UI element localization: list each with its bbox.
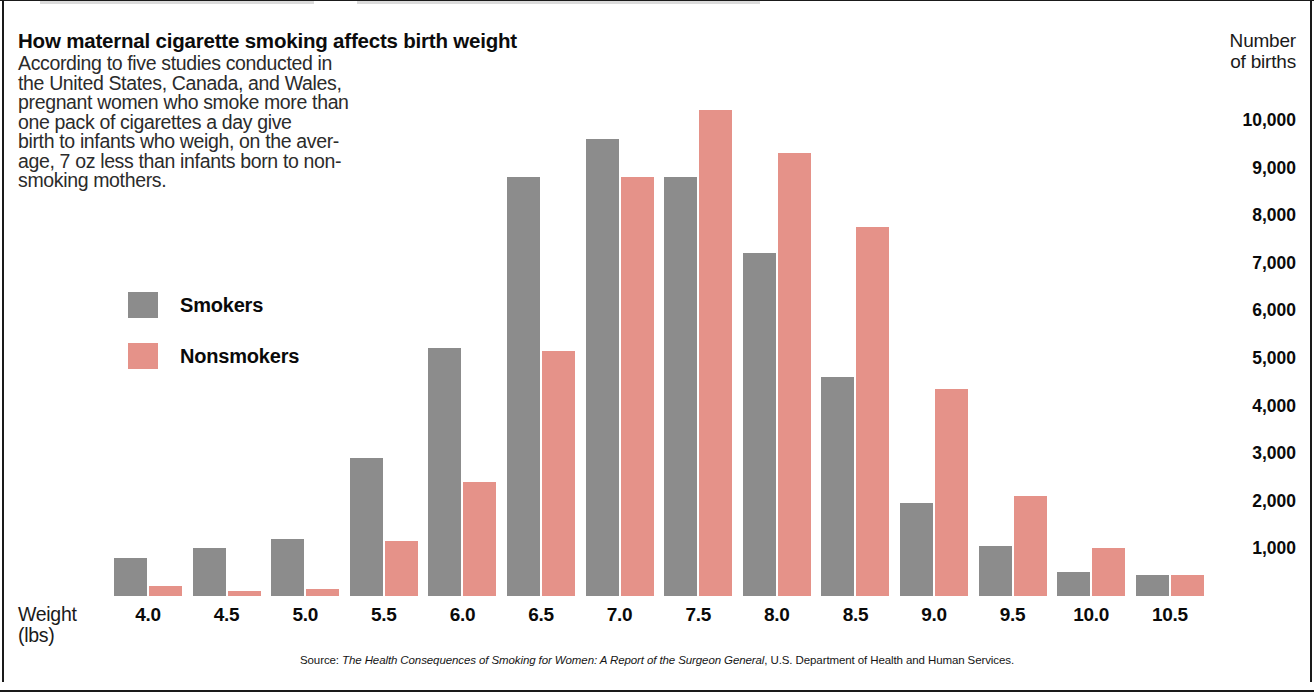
bar-nonsmokers-9.5 [1014,496,1047,596]
bar-nonsmokers-4.0 [149,586,182,596]
bar-nonsmokers-10.0 [1092,548,1125,596]
y-axis-title-line: of births [1230,51,1296,72]
x-axis-tick-label: 9.0 [921,604,947,626]
y-axis-tick-label: 9,000 [1252,157,1296,178]
x-axis-tick-label: 4.0 [135,604,161,626]
y-axis-tick-label: 2,000 [1252,490,1296,511]
source-prefix: Source: [300,654,342,666]
bar-smokers-8.0 [743,253,776,596]
bar-smokers-9.5 [979,546,1012,596]
x-axis-tick-label: 4.5 [214,604,240,626]
source-note: Source: The Health Consequences of Smoki… [0,654,1314,666]
bar-smokers-6.5 [507,177,540,596]
bar-nonsmokers-7.0 [621,177,654,596]
bar-nonsmokers-5.5 [385,541,418,596]
bottom-rule [0,690,1314,692]
x-axis-tick-label: 5.0 [292,604,318,626]
x-axis-tick-label: 7.0 [607,604,633,626]
bar-nonsmokers-7.5 [699,110,732,596]
bar-nonsmokers-8.5 [856,227,889,596]
x-axis-tick-label: 9.5 [1000,604,1026,626]
x-axis-tick-label: 8.5 [843,604,869,626]
y-axis-title: Number of births [1230,30,1296,72]
legend-item-smokers: Smokers [128,292,299,318]
bar-smokers-5.5 [350,458,383,596]
legend-swatch-nonsmokers [128,343,158,369]
y-axis-tick-label: 7,000 [1252,252,1296,273]
bar-smokers-7.5 [664,177,697,596]
y-axis-tick-label: 5,000 [1252,348,1296,369]
chart-legend: Smokers Nonsmokers [128,292,299,394]
bar-smokers-10.0 [1057,572,1090,596]
y-axis-tick-label: 6,000 [1252,300,1296,321]
bar-smokers-8.5 [821,377,854,596]
bar-smokers-9.0 [900,503,933,596]
source-title: The Health Consequences of Smoking for W… [342,654,764,666]
y-axis-tick-label: 10,000 [1242,110,1296,131]
legend-swatch-smokers [128,292,158,318]
y-axis-title-line: Number [1230,30,1296,51]
legend-label-nonsmokers: Nonsmokers [180,345,299,368]
x-axis-tick-label: 6.0 [450,604,476,626]
bar-smokers-7.0 [586,139,619,596]
x-axis-tick-label: 8.0 [764,604,790,626]
x-axis-tick-label: 10.0 [1073,604,1109,626]
bar-smokers-5.0 [271,539,304,596]
legend-item-nonsmokers: Nonsmokers [128,343,299,369]
right-rule [1310,0,1312,682]
x-axis-tick-label: 6.5 [528,604,554,626]
bar-nonsmokers-6.0 [463,482,496,596]
bar-nonsmokers-4.5 [228,591,261,596]
x-axis-tick-label: 7.5 [685,604,711,626]
bar-nonsmokers-5.0 [306,589,339,596]
y-axis-tick-label: 1,000 [1252,538,1296,559]
x-axis-tick-label: 10.5 [1152,604,1188,626]
bar-nonsmokers-6.5 [542,351,575,596]
bar-nonsmokers-10.5 [1171,575,1204,596]
legend-label-smokers: Smokers [180,294,263,317]
bar-nonsmokers-8.0 [778,153,811,596]
bar-smokers-4.0 [114,558,147,596]
bar-smokers-6.0 [428,348,461,596]
y-axis-tick-label: 8,000 [1252,205,1296,226]
bar-nonsmokers-9.0 [935,389,968,596]
y-axis-tick-label: 3,000 [1252,443,1296,464]
chart-page: How maternal cigarette smoking affects b… [0,0,1314,696]
x-axis-tick-label: 5.5 [371,604,397,626]
x-axis-ticks: 4.04.55.05.56.06.57.07.58.08.59.09.510.0… [0,604,1314,644]
source-suffix: , U.S. Department of Health and Human Se… [764,654,1014,666]
bar-smokers-10.5 [1136,575,1169,596]
bar-smokers-4.5 [193,548,226,596]
y-axis-tick-label: 4,000 [1252,395,1296,416]
